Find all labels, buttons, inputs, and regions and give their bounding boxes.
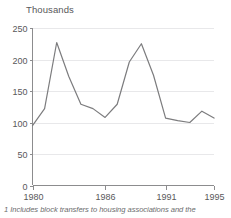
chart-plot-area: 250200150100500 1980198619911995 xyxy=(0,0,231,218)
x-tick-label: 1991 xyxy=(156,192,176,202)
x-axis-ticks: 1980198619911995 xyxy=(23,186,224,202)
y-tick-label: 250 xyxy=(12,24,27,34)
y-axis-ticks: 250200150100500 xyxy=(12,24,32,192)
line-chart-figure: Thousands 250200150100500 19801986199119… xyxy=(0,0,231,218)
y-tick-label: 200 xyxy=(12,56,27,66)
gridlines-group xyxy=(33,29,215,155)
x-tick-label: 1986 xyxy=(95,192,115,202)
data-series-line xyxy=(33,42,215,125)
chart-footnote: 1 Includes block transfers to housing as… xyxy=(4,205,231,214)
y-tick-label: 0 xyxy=(22,182,27,192)
x-tick-label: 1980 xyxy=(23,192,43,202)
y-tick-label: 150 xyxy=(12,87,27,97)
y-tick-label: 50 xyxy=(17,150,27,160)
y-tick-label: 100 xyxy=(12,119,27,129)
x-tick-label: 1995 xyxy=(204,192,224,202)
